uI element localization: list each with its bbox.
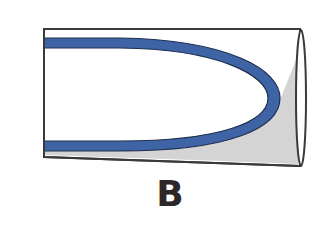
open-end-ellipse (296, 30, 306, 166)
figure-label: B (0, 174, 320, 214)
